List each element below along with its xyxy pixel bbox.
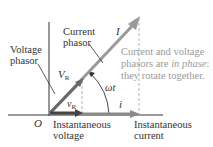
origin-label: O: [34, 117, 42, 129]
note-line2-emphasis: in phase: [171, 58, 206, 69]
note-line2-pre: phasors are: [121, 58, 171, 69]
angle-arc: [90, 73, 109, 114]
instantaneous-voltage-label: Instantaneous voltage: [53, 119, 111, 141]
instantaneous-voltage-line1: Instantaneous: [53, 119, 111, 130]
instantaneous-voltage-symbol: vR: [67, 98, 76, 111]
current-phasor-label-line1: Current: [63, 26, 95, 37]
current-symbol: I: [116, 25, 120, 37]
note-line1: Current and voltage: [121, 46, 209, 58]
note-line2: phasors are in phase:: [121, 58, 209, 70]
voltage-phasor-label-line2: phasor: [10, 55, 42, 66]
voltage-phasor-leader: [38, 64, 55, 94]
voltage-symbol: V: [58, 68, 65, 80]
current-phasor-label: Current phasor: [63, 26, 95, 48]
instantaneous-current-line2: current: [134, 130, 192, 141]
voltage-symbol-subscript: R: [65, 74, 70, 82]
instantaneous-voltage-arrowhead: [75, 109, 83, 117]
angle-label: ωt: [105, 82, 115, 93]
inst-voltage-subscript: R: [71, 103, 76, 111]
instantaneous-current-label: Instantaneous current: [134, 119, 192, 141]
instantaneous-current-symbol: i: [119, 98, 122, 110]
instantaneous-current-arrowhead: [130, 110, 140, 118]
note-line3: they rotate together.: [121, 70, 209, 82]
note-line2-post: :: [206, 58, 209, 69]
voltage-phasor-symbol: VR: [58, 68, 69, 82]
instantaneous-current-line1: Instantaneous: [134, 119, 192, 130]
instantaneous-voltage-line2: voltage: [53, 130, 111, 141]
current-phasor-label-line2: phasor: [63, 37, 95, 48]
voltage-phasor-label: Voltage phasor: [10, 44, 42, 66]
voltage-phasor-label-line1: Voltage: [10, 44, 42, 55]
in-phase-note: Current and voltage phasors are in phase…: [121, 46, 209, 82]
